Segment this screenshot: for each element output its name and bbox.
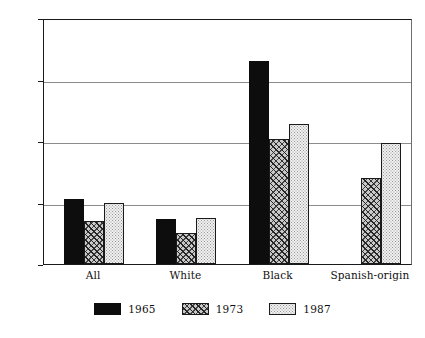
bars-layer bbox=[44, 20, 411, 264]
bar-white-1973 bbox=[176, 233, 196, 264]
x-axis-label-all: All bbox=[86, 269, 101, 281]
legend-swatch-1973 bbox=[182, 303, 209, 315]
plot-area bbox=[43, 19, 412, 265]
bar-all-1987 bbox=[104, 203, 124, 265]
y-tick-mark-80 bbox=[38, 19, 43, 20]
y-tick-mark-0 bbox=[38, 265, 43, 266]
y-tick-mark-20 bbox=[38, 204, 43, 205]
y-tick-mark-60 bbox=[38, 81, 43, 82]
legend-item-1973[interactable]: 1973 bbox=[182, 303, 244, 315]
bar-all-1965 bbox=[64, 199, 84, 264]
bar-spanish-origin-1987 bbox=[381, 143, 401, 264]
legend-label-1965: 1965 bbox=[128, 303, 156, 315]
bar-white-1987 bbox=[196, 218, 216, 264]
bar-black-1973 bbox=[269, 139, 289, 264]
legend-item-1965[interactable]: 1965 bbox=[94, 303, 156, 315]
x-axis-label-white: White bbox=[169, 269, 201, 281]
bar-black-1965 bbox=[249, 61, 269, 264]
x-axis-label-spanish-origin: Spanish-origin bbox=[330, 269, 409, 281]
legend-item-1987[interactable]: 1987 bbox=[269, 303, 331, 315]
legend-label-1987: 1987 bbox=[303, 303, 331, 315]
bar-all-1973 bbox=[84, 221, 104, 264]
bar-black-1987 bbox=[289, 124, 309, 264]
bar-white-1965 bbox=[156, 219, 176, 264]
legend-swatch-1987 bbox=[269, 303, 296, 315]
bar-chart: 020406080 AllWhiteBlackSpanish-origin 19… bbox=[0, 0, 425, 338]
bar-spanish-origin-1973 bbox=[361, 178, 381, 264]
legend-label-1973: 1973 bbox=[216, 303, 244, 315]
chart-legend: 196519731987 bbox=[0, 303, 425, 315]
x-axis-label-black: Black bbox=[263, 269, 293, 281]
y-tick-mark-40 bbox=[38, 142, 43, 143]
legend-swatch-1965 bbox=[94, 303, 121, 315]
